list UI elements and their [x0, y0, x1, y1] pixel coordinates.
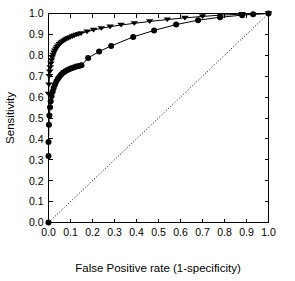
- lower-roc-curve-marker: [195, 17, 201, 23]
- lower-roc-curve-marker: [85, 55, 91, 61]
- lower-roc-curve-marker: [96, 49, 102, 55]
- x-tick-label-1: 0.1: [63, 226, 78, 238]
- chart-background: [0, 0, 295, 281]
- lower-roc-curve-marker: [108, 43, 114, 49]
- x-axis-tick-labels: 0.00.10.20.30.40.50.60.70.80.91.0: [41, 226, 276, 238]
- lower-roc-curve-marker: [46, 153, 52, 159]
- lower-roc-curve-marker: [130, 34, 136, 40]
- lower-roc-curve-marker: [46, 139, 52, 145]
- x-tick-label-8: 0.8: [217, 226, 232, 238]
- y-axis-title: Sensitivity: [4, 92, 16, 144]
- lower-roc-curve-marker: [173, 22, 179, 28]
- y-tick-label-5: 0.5: [29, 112, 44, 124]
- lower-roc-curve-marker: [250, 11, 256, 17]
- x-axis-title: False Positive rate (1-specificity): [75, 262, 241, 274]
- roc-chart-figure: 0.00.10.20.30.40.50.60.70.80.91.0 0.00.1…: [0, 0, 295, 281]
- y-tick-label-4: 0.4: [29, 133, 44, 145]
- x-tick-label-9: 0.9: [239, 226, 254, 238]
- lower-roc-curve-marker: [79, 62, 85, 68]
- x-tick-label-4: 0.4: [129, 226, 144, 238]
- y-tick-label-3: 0.3: [29, 154, 44, 166]
- x-tick-label-10: 1.0: [261, 226, 276, 238]
- x-tick-label-5: 0.5: [151, 226, 166, 238]
- y-tick-label-8: 0.8: [29, 49, 44, 61]
- y-tick-label-10: 1.0: [29, 7, 44, 19]
- lower-roc-curve-marker: [266, 11, 272, 17]
- x-tick-label-7: 0.7: [195, 226, 210, 238]
- lower-roc-curve-marker: [239, 12, 245, 18]
- lower-roc-curve-marker: [151, 27, 157, 33]
- y-tick-label-7: 0.7: [29, 70, 44, 82]
- origin-point-marker: [46, 220, 52, 226]
- lower-roc-curve-marker: [47, 104, 53, 110]
- y-tick-label-2: 0.2: [29, 175, 44, 187]
- x-tick-label-3: 0.3: [107, 226, 122, 238]
- lower-roc-curve-marker: [48, 98, 54, 104]
- lower-roc-curve-marker: [46, 122, 52, 128]
- y-tick-label-1: 0.1: [29, 195, 44, 207]
- roc-chart-svg: 0.00.10.20.30.40.50.60.70.80.91.0 0.00.1…: [0, 0, 295, 281]
- y-tick-label-9: 0.9: [29, 28, 44, 40]
- x-tick-label-2: 0.2: [85, 226, 100, 238]
- lower-roc-curve-marker: [46, 112, 52, 118]
- y-tick-label-0: 0.0: [29, 216, 44, 228]
- x-tick-label-6: 0.6: [173, 226, 188, 238]
- y-tick-label-6: 0.6: [29, 91, 44, 103]
- lower-roc-curve-marker: [217, 14, 223, 20]
